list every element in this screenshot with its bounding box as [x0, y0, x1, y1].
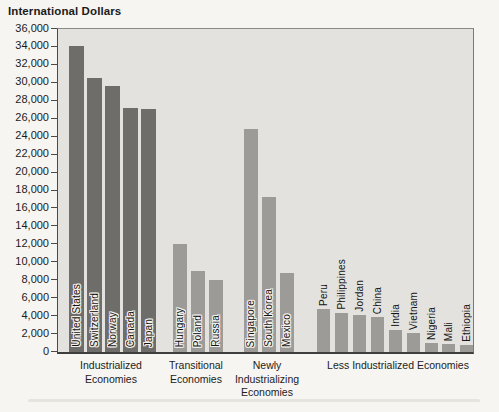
group-axis-labels: Industrialized EconomiesTransitional Eco… — [0, 0, 499, 412]
group-label-less-industrialized-economies: Less Industrialized Economies — [308, 359, 488, 373]
scan-artifact — [28, 399, 480, 402]
chart-figure: International Dollars 36,00034,00032,000… — [0, 0, 499, 412]
